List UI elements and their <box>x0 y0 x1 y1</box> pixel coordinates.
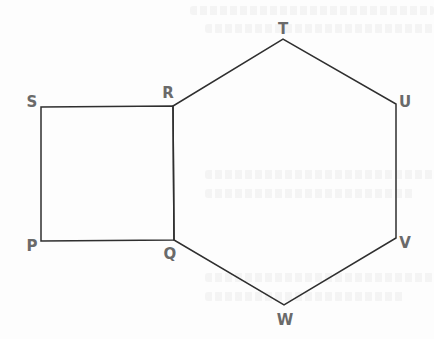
vertex-label-v: V <box>399 234 411 252</box>
geometry-figure: S R T U V W Q P <box>0 0 434 339</box>
vertex-label-w: W <box>277 311 294 329</box>
vertex-label-u: U <box>399 93 411 111</box>
hexagon-qrtuvw <box>173 39 396 305</box>
vertex-label-r: R <box>162 84 174 102</box>
vertex-label-p: P <box>27 237 38 255</box>
vertex-label-t: T <box>278 20 289 38</box>
diagram-canvas: S R T U V W Q P <box>0 0 434 339</box>
vertex-label-s: S <box>27 93 38 111</box>
vertex-label-q: Q <box>164 245 177 263</box>
square-pqrs <box>41 106 174 241</box>
